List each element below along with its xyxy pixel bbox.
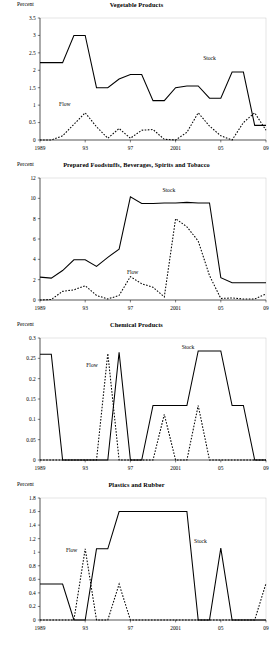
y-tick-label: 6 bbox=[33, 236, 36, 242]
y-tick-label: 1.8 bbox=[29, 495, 36, 501]
x-tick-label: 09 bbox=[263, 465, 269, 471]
y-tick-label: 1 bbox=[33, 102, 36, 108]
y-tick-label: 0.2 bbox=[29, 603, 36, 609]
y-tick-label: 1.6 bbox=[29, 508, 36, 514]
series-label-flow: Flow bbox=[66, 547, 78, 553]
x-tick-label: 97 bbox=[128, 305, 134, 311]
y-tick-label: 2 bbox=[33, 277, 36, 283]
y-tick-label: 4 bbox=[33, 256, 36, 262]
x-tick-label: 97 bbox=[128, 145, 134, 151]
y-tick-label: 0.6 bbox=[29, 576, 36, 582]
series-label-stock: Stock bbox=[162, 187, 175, 193]
y-tick-label: 3.5 bbox=[29, 15, 36, 21]
series-label-flow: Flow bbox=[127, 269, 139, 275]
x-tick-label: 97 bbox=[128, 625, 134, 631]
series-stock-line bbox=[40, 197, 266, 283]
series-label-stock: Stock bbox=[203, 55, 216, 61]
x-tick-label: 09 bbox=[263, 625, 269, 631]
x-tick-label: 2001 bbox=[170, 625, 181, 631]
series-label-flow: Flow bbox=[86, 362, 98, 368]
series-label-flow: Flow bbox=[59, 101, 71, 107]
series-flow-line bbox=[40, 549, 266, 620]
x-tick-label: 1989 bbox=[35, 145, 46, 151]
x-tick-label: 1989 bbox=[35, 305, 46, 311]
x-tick-label: 09 bbox=[263, 145, 269, 151]
plot-frame bbox=[40, 338, 266, 460]
y-tick-label: 0.8 bbox=[29, 563, 36, 569]
y-tick-label: 3 bbox=[33, 32, 36, 38]
chart-plot-area: 00.20.40.60.811.21.41.61.819899397200105… bbox=[0, 480, 273, 640]
x-tick-label: 93 bbox=[83, 305, 89, 311]
chart-title: Vegetable Products bbox=[0, 0, 273, 9]
chart-title: Chemical Products bbox=[0, 320, 273, 329]
y-tick-label: 1 bbox=[33, 549, 36, 555]
y-tick-label: 0.2 bbox=[29, 376, 36, 382]
x-tick-label: 2001 bbox=[170, 305, 181, 311]
plot-frame bbox=[40, 498, 266, 620]
y-tick-label: 0.4 bbox=[29, 590, 36, 596]
y-tick-label: 1.2 bbox=[29, 536, 36, 542]
x-tick-label: 93 bbox=[83, 465, 89, 471]
y-tick-label: 0 bbox=[33, 617, 36, 623]
x-tick-label: 93 bbox=[83, 625, 89, 631]
x-tick-label: 1989 bbox=[35, 625, 46, 631]
series-label-stock: Stock bbox=[194, 538, 207, 544]
y-tick-label: 1.4 bbox=[29, 522, 36, 528]
series-stock-line bbox=[40, 512, 266, 620]
y-tick-label: 8 bbox=[33, 216, 36, 222]
x-tick-label: 05 bbox=[218, 625, 224, 631]
y-tick-label: 0.15 bbox=[26, 396, 36, 402]
chart-plot-area: 0246810121989939720010509StockFlow bbox=[0, 160, 273, 320]
y-tick-label: 2.5 bbox=[29, 50, 36, 56]
y-tick-label: 1.5 bbox=[29, 85, 36, 91]
x-tick-label: 2001 bbox=[170, 145, 181, 151]
chart-panel-chemical-products: 00.050.10.150.20.250.31989939720010509St… bbox=[0, 320, 273, 480]
x-tick-label: 09 bbox=[263, 305, 269, 311]
x-tick-label: 05 bbox=[218, 145, 224, 151]
y-tick-label: 0.5 bbox=[29, 119, 36, 125]
y-tick-label: 0.05 bbox=[26, 437, 36, 443]
figure-sheet: 00.511.522.533.51989939720010509StockFlo… bbox=[0, 0, 273, 658]
y-tick-label: 0.3 bbox=[29, 335, 36, 341]
y-tick-label: 0.1 bbox=[29, 416, 36, 422]
x-tick-label: 05 bbox=[218, 305, 224, 311]
x-tick-label: 05 bbox=[218, 465, 224, 471]
x-tick-label: 93 bbox=[83, 145, 89, 151]
y-tick-label: 2 bbox=[33, 67, 36, 73]
series-flow-line bbox=[40, 113, 266, 140]
chart-plot-area: 00.511.522.533.51989939720010509StockFlo… bbox=[0, 0, 273, 160]
y-tick-label: 0 bbox=[33, 297, 36, 303]
chart-panel-vegetable-products: 00.511.522.533.51989939720010509StockFlo… bbox=[0, 0, 273, 160]
chart-title: Plastics and Rubber bbox=[0, 480, 273, 489]
x-tick-label: 2001 bbox=[170, 465, 181, 471]
chart-panel-plastics-and-rubber: 00.20.40.60.811.21.41.61.819899397200105… bbox=[0, 480, 273, 640]
plot-frame bbox=[40, 178, 266, 300]
chart-panel-prepared-foodstuffs: 0246810121989939720010509StockFlow Perce… bbox=[0, 160, 273, 320]
y-tick-label: 0 bbox=[33, 457, 36, 463]
y-tick-label: 0 bbox=[33, 137, 36, 143]
y-tick-label: 10 bbox=[30, 195, 36, 201]
series-stock-line bbox=[40, 35, 266, 125]
x-tick-label: 97 bbox=[128, 465, 134, 471]
series-label-stock: Stock bbox=[182, 344, 195, 350]
chart-plot-area: 00.050.10.150.20.250.31989939720010509St… bbox=[0, 320, 273, 480]
y-tick-label: 12 bbox=[30, 175, 36, 181]
series-stock-line bbox=[40, 351, 266, 460]
chart-title: Prepared Foodstuffs, Beverages, Spirits … bbox=[0, 160, 273, 169]
y-tick-label: 0.25 bbox=[26, 355, 36, 361]
x-tick-label: 1989 bbox=[35, 465, 46, 471]
